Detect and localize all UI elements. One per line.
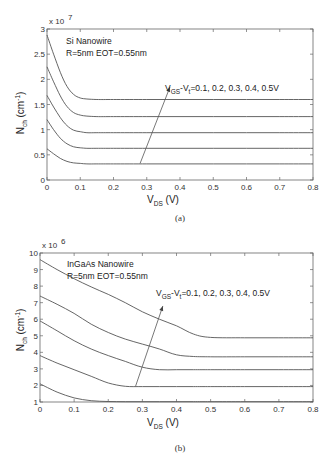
x-tick-label: 0.2 <box>108 183 120 192</box>
y-tick-label: 5 <box>34 332 39 341</box>
x-tick-label: 0.8 <box>307 183 319 192</box>
x-tick-label: 0.1 <box>75 183 87 192</box>
arrow-label: VGS-Vt=0.1, 0.2, 0.3, 0.4, 0.5V <box>165 83 279 95</box>
x-tick-label: 0.8 <box>307 405 319 414</box>
x-tick-label: 0.6 <box>241 183 253 192</box>
arrow-head-icon <box>159 306 163 311</box>
series-line-3 <box>40 321 313 370</box>
x-tick-label: 0.1 <box>69 405 81 414</box>
annotation-title: InGaAs Nanowire <box>67 259 134 269</box>
x-tick-label: 0.4 <box>171 405 183 414</box>
y-tick-label: 6 <box>34 315 39 324</box>
y-label-close: ) <box>15 92 26 95</box>
y-label-close: ) <box>15 309 26 312</box>
y-label-n: N <box>15 344 26 351</box>
series-line-2 <box>40 356 313 387</box>
y-multiplier-exponent: 7 <box>68 13 73 22</box>
y-tick-label: 0.5 <box>34 151 46 160</box>
x-label-unit: (V) <box>163 417 179 428</box>
y-label-unit: (cm <box>15 101 26 120</box>
y-tick-label: 8 <box>34 282 39 291</box>
series-line-1 <box>47 149 313 164</box>
y-label-n: N <box>15 127 26 134</box>
y-tick-label: 10 <box>29 249 38 258</box>
arrow-label-values: =0.1, 0.2, 0.3, 0.4, 0.5V <box>190 83 279 93</box>
x-tick-label: 0 <box>38 405 43 414</box>
y-tick-label: 7 <box>34 299 39 308</box>
y-tick-label: 2.5 <box>34 50 46 59</box>
y-tick-label: 1 <box>34 398 39 407</box>
x-tick-label: 0.2 <box>103 405 115 414</box>
chart-panel-b: 00.10.20.30.40.50.60.70.812345678910x 10… <box>14 237 319 453</box>
annotation-params: R=5nm EOT=0.55nm <box>67 271 148 281</box>
y-tick-label: 0 <box>41 176 46 185</box>
x-tick-label: 0.3 <box>137 405 149 414</box>
y-tick-label: 2 <box>41 75 46 84</box>
arrow-label-values: =0.1, 0.2, 0.3, 0.4, 0.5V <box>181 288 270 298</box>
annotation-params: R=5nm EOT=0.55nm <box>66 48 147 58</box>
series-line-4 <box>40 296 313 357</box>
arrow-label: VGS-Vt=0.1, 0.2, 0.3, 0.4, 0.5V <box>156 288 270 300</box>
y-multiplier: x 10 <box>49 17 65 26</box>
y-axis-label: Nch (cm-1) <box>14 309 28 352</box>
y-multiplier-exponent: 6 <box>61 237 66 246</box>
y-tick-label: 1.5 <box>34 101 46 110</box>
x-tick-label: 0 <box>45 183 50 192</box>
x-tick-label: 0.3 <box>141 183 153 192</box>
x-axis-label: VDS (V) <box>147 417 179 430</box>
trend-arrow <box>136 306 164 386</box>
figure-caption: (b) <box>175 443 186 453</box>
x-tick-label: 0.5 <box>208 183 220 192</box>
x-tick-label: 0.5 <box>205 405 217 414</box>
y-tick-label: 3 <box>41 25 46 34</box>
y-multiplier: x 10 <box>42 241 58 250</box>
arrow-label-minus-v: -V <box>180 83 189 93</box>
y-tick-label: 1 <box>41 126 46 135</box>
y-label-unit: (cm <box>15 318 26 337</box>
y-axis-label: Nch (cm-1) <box>14 92 28 135</box>
series-line-2 <box>47 120 313 149</box>
figure: 00.10.20.30.40.50.60.70.800.511.522.53x … <box>0 0 334 460</box>
y-tick-label: 2 <box>34 381 39 390</box>
x-tick-label: 0.4 <box>174 183 186 192</box>
x-tick-label: 0.6 <box>239 405 251 414</box>
x-tick-label: 0.7 <box>274 183 286 192</box>
y-tick-label: 4 <box>34 348 39 357</box>
annotation-title: Si Nanowire <box>66 36 112 46</box>
x-label-unit: (V) <box>163 194 179 205</box>
y-tick-label: 3 <box>34 365 39 374</box>
trend-arrow <box>140 87 170 164</box>
figure-caption: (a) <box>175 213 185 223</box>
series-line-3 <box>47 95 313 132</box>
y-tick-label: 9 <box>34 266 39 275</box>
chart-panel-a: 00.10.20.30.40.50.60.70.800.511.522.53x … <box>14 13 319 223</box>
x-tick-label: 0.7 <box>273 405 285 414</box>
x-axis-label: VDS (V) <box>147 194 179 207</box>
arrow-label-minus-v: -V <box>171 288 180 298</box>
